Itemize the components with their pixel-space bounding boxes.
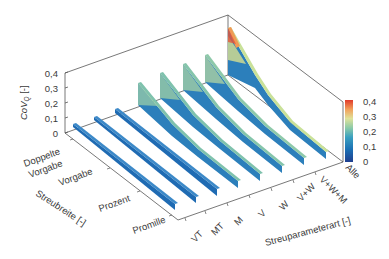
x-cat-Alle: Alle xyxy=(344,162,363,181)
y-cat-vorgabe: Vorgabe xyxy=(57,165,94,187)
z-axis: 0 0,1 0,2 0,3 0,4 CoVQ [-] xyxy=(18,68,68,139)
y-cat-promille: Promille xyxy=(131,214,167,236)
z-tick-4: 0,4 xyxy=(45,68,58,79)
x-cat-V+W: V+W xyxy=(295,181,318,204)
ribbons xyxy=(73,27,329,210)
3d-ribbon-chart: 0 0,1 0,2 0,3 0,4 CoVQ [-] xyxy=(0,0,389,259)
colorbar: 0,4 0,3 0,2 0,1 0 xyxy=(345,96,376,167)
z-tick-2: 0,2 xyxy=(45,98,58,109)
cb-tick-3: 0,3 xyxy=(363,111,376,122)
x-cat-V: V xyxy=(256,207,269,220)
z-tick-1: 0,1 xyxy=(45,113,58,124)
y-cat-prozent: Prozent xyxy=(97,192,132,214)
x-cat-VT: VT xyxy=(189,228,206,245)
x-axis: VT MT M V W V+W V+W+M Alle Streuparamete… xyxy=(185,162,363,248)
z-tick-3: 0,3 xyxy=(45,83,58,94)
x-cat-W: W xyxy=(277,198,291,212)
x-axis-label: Streuparameterart [-] xyxy=(264,214,352,247)
cb-tick-2: 0,2 xyxy=(363,126,376,137)
z-tick-0: 0 xyxy=(53,128,58,139)
cb-tick-4: 0,4 xyxy=(363,96,376,107)
x-cat-M: M xyxy=(232,214,245,227)
cb-tick-0: 0 xyxy=(363,156,368,167)
y-axis-label: Streubreite [-] xyxy=(34,187,88,228)
colorbar-bar xyxy=(345,100,353,162)
x-cat-V+W+M: V+W+M xyxy=(318,174,350,206)
cb-tick-1: 0,1 xyxy=(363,141,376,152)
x-cat-MT: MT xyxy=(209,220,227,238)
z-axis-label: CoVQ [-] xyxy=(18,85,31,120)
